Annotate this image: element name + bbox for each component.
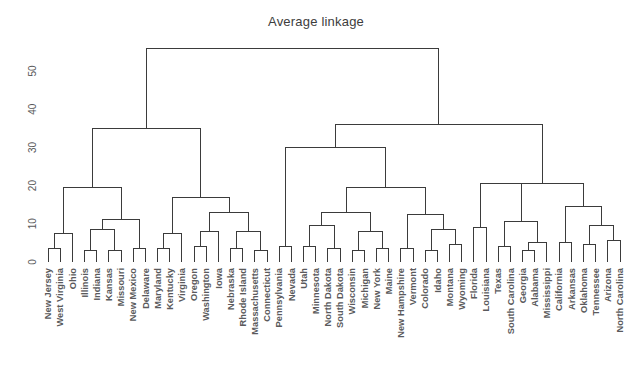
leaf-label: California bbox=[554, 267, 564, 311]
dendrogram-link bbox=[450, 245, 462, 262]
leaf-label: Vermont bbox=[408, 268, 418, 305]
leaf-label: Kentucky bbox=[165, 267, 175, 310]
leaf-label: Arkansas bbox=[567, 268, 577, 310]
dendrogram-link bbox=[133, 249, 145, 262]
dendrogram-link bbox=[565, 207, 602, 243]
dendrogram-link bbox=[231, 249, 243, 262]
dendrogram-link bbox=[425, 251, 437, 262]
dendrogram-link bbox=[608, 241, 620, 262]
dendrogram-links bbox=[48, 48, 620, 262]
leaf-label: North Dakota bbox=[323, 267, 333, 326]
y-axis-tick-label: 30 bbox=[27, 141, 38, 153]
dendrogram-link bbox=[209, 212, 249, 231]
dendrogram-link bbox=[48, 249, 60, 262]
y-axis-tick-label: 10 bbox=[27, 218, 38, 230]
dendrogram-link bbox=[173, 197, 229, 233]
dendrogram-link bbox=[377, 249, 389, 262]
y-axis-tick-label: 50 bbox=[27, 65, 38, 77]
y-axis-tick-label: 0 bbox=[27, 259, 38, 265]
leaf-label: Nevada bbox=[287, 267, 297, 301]
leaf-label: Oklahoma bbox=[579, 267, 589, 313]
dendrogram-link bbox=[407, 214, 444, 248]
leaf-label: Oregon bbox=[189, 268, 199, 301]
dendrogram-link bbox=[279, 247, 291, 262]
dendrogram-link bbox=[498, 247, 510, 262]
dendrogram-link bbox=[358, 231, 382, 250]
leaf-label: Missouri bbox=[116, 268, 126, 306]
leaf-label: Montana bbox=[445, 267, 455, 306]
dendrogram-link bbox=[85, 251, 97, 262]
leaf-label: Maine bbox=[384, 268, 394, 294]
leaf-label: Iowa bbox=[214, 267, 224, 288]
dendrogram-link bbox=[322, 212, 371, 231]
leaf-label: Massachusetts bbox=[250, 268, 260, 335]
y-axis-tick-label: 40 bbox=[27, 103, 38, 115]
leaf-label: Arizona bbox=[603, 267, 613, 302]
leaf-label: Indiana bbox=[92, 267, 102, 300]
leaf-label: Virginia bbox=[177, 267, 187, 302]
dendrogram-link bbox=[336, 124, 543, 183]
dendrogram-link bbox=[91, 230, 115, 251]
leaf-label: West Virginia bbox=[55, 267, 65, 326]
dendrogram-link bbox=[328, 249, 340, 262]
dendrogram-link bbox=[109, 251, 121, 262]
leaf-label: Mississippi bbox=[542, 268, 552, 318]
dendrogram-link bbox=[92, 128, 201, 197]
leaf-label: Maryland bbox=[153, 268, 163, 309]
leaf-label: Florida bbox=[469, 267, 479, 299]
dendrogram-link bbox=[237, 231, 261, 250]
leaf-label: North Carolina bbox=[615, 267, 625, 332]
dendrogram-plot: Average linkage 01020304050New JerseyWes… bbox=[0, 0, 632, 392]
leaf-label: Tennessee bbox=[591, 268, 601, 315]
dendrogram-link bbox=[158, 249, 170, 262]
leaf-label: Rhode Island bbox=[238, 268, 248, 327]
dendrogram-link bbox=[523, 251, 535, 262]
dendrogram-link bbox=[147, 48, 439, 128]
dendrogram-link bbox=[529, 243, 547, 262]
leaf-label: South Carolina bbox=[506, 267, 516, 334]
leaf-label: Nebraska bbox=[226, 267, 236, 310]
dendrogram-link bbox=[194, 247, 206, 262]
dendrogram-link bbox=[304, 247, 316, 262]
leaf-label: Kansas bbox=[104, 268, 114, 301]
leaf-label: Idaho bbox=[433, 268, 443, 293]
leaf-label: New Jersey bbox=[43, 267, 53, 319]
chart-title: Average linkage bbox=[0, 14, 632, 29]
dendrogram-link bbox=[474, 228, 486, 262]
leaf-labels: New JerseyWest VirginiaOhioIllinoisIndia… bbox=[43, 267, 625, 338]
dendrogram-link bbox=[164, 233, 182, 262]
leaf-label: Georgia bbox=[518, 267, 528, 303]
leaf-label: Wyoming bbox=[457, 268, 467, 310]
dendrogram-link bbox=[352, 251, 364, 262]
leaf-label: Wisconsin bbox=[347, 268, 357, 315]
leaf-label: Washington bbox=[201, 268, 211, 321]
dendrogram-link bbox=[255, 251, 267, 262]
dendrogram-link bbox=[480, 184, 521, 228]
leaf-label: Utah bbox=[299, 268, 309, 289]
dendrogram-link bbox=[501, 184, 584, 207]
dendrogram-link bbox=[401, 249, 413, 262]
y-axis-tick-label: 20 bbox=[27, 180, 38, 192]
leaf-label: Michigan bbox=[360, 268, 370, 309]
leaf-label: Connecticut bbox=[262, 268, 272, 322]
leaf-label: Delaware bbox=[141, 268, 151, 309]
dendrogram-link bbox=[310, 226, 334, 249]
dendrogram-link bbox=[54, 233, 72, 262]
dendrogram-link bbox=[559, 243, 571, 262]
leaf-label: Ohio bbox=[68, 268, 78, 289]
leaf-label: Colorado bbox=[420, 268, 430, 309]
dendrogram-link bbox=[590, 226, 614, 245]
dendrogram-link bbox=[583, 245, 595, 262]
leaf-label: Alabama bbox=[530, 267, 540, 307]
dendrogram-svg: 01020304050New JerseyWest VirginiaOhioIl… bbox=[0, 0, 632, 392]
dendrogram-link bbox=[431, 230, 455, 251]
leaf-label: New Hampshire bbox=[396, 268, 406, 338]
dendrogram-link bbox=[63, 188, 121, 234]
dendrogram-link bbox=[346, 188, 425, 215]
leaf-label: Louisiana bbox=[481, 267, 491, 311]
y-axis: 01020304050 bbox=[27, 65, 38, 265]
leaf-label: South Dakota bbox=[335, 267, 345, 328]
leaf-label: Illinois bbox=[80, 268, 90, 297]
leaf-label: Minnesota bbox=[311, 267, 321, 314]
leaf-label: Texas bbox=[493, 268, 503, 294]
